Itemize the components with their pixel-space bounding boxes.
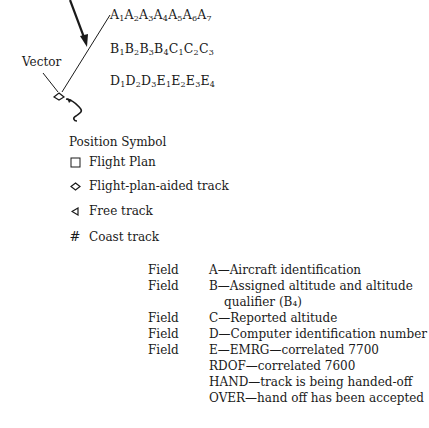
data-block-field: A5 [168, 7, 183, 22]
diamond-icon [67, 182, 83, 191]
field-row: qualifier (B₄) [148, 294, 427, 310]
data-block-field: B2 [125, 41, 140, 56]
field-description: RDOF—correlated 7600 [209, 358, 355, 374]
field-key [148, 390, 209, 406]
field-description: E—EMRG—correlated 7700 [209, 342, 379, 358]
data-block-field: C1 [169, 41, 184, 56]
square-icon [67, 157, 83, 168]
data-block-field: D1 [110, 73, 126, 88]
legend-label: Coast track [89, 230, 159, 244]
trail-arrow-icon [67, 98, 72, 103]
field-description: OVER—hand off has been accepted [209, 390, 424, 406]
field-key: Field [148, 342, 209, 358]
field-description: qualifier (B₄) [224, 294, 302, 310]
field-description: D—Computer identification number [209, 326, 427, 342]
legend-item-free-track: Free track [67, 204, 153, 218]
legend-item-flight-plan: Flight Plan [67, 155, 156, 169]
legend-label: Free track [89, 204, 153, 218]
vector-line [43, 73, 58, 92]
hash-icon: # [67, 229, 83, 244]
data-block-field: E3 [186, 73, 201, 88]
field-row: FieldD—Computer identification number [148, 326, 427, 342]
data-block-line-1: A1A2A3A4A5A6A7 [110, 7, 212, 23]
field-description: HAND—track is being handed-off [209, 374, 412, 390]
field-row: FieldC—Reported altitude [148, 310, 427, 326]
field-row: FieldA—Aircraft identification [148, 262, 427, 278]
data-block-field: A7 [197, 7, 212, 22]
arrow-shaft [70, 0, 85, 40]
leader-line [62, 15, 110, 92]
field-key [148, 294, 224, 310]
data-block-field: C2 [184, 41, 199, 56]
squiggle-trail [66, 99, 81, 121]
field-definitions: FieldA—Aircraft identificationFieldB—Ass… [148, 262, 427, 406]
field-description: B—Assigned altitude and altitude [209, 278, 413, 294]
arrow-head-icon [80, 34, 88, 47]
field-key: Field [148, 262, 209, 278]
legend-label: Flight-plan-aided track [89, 179, 229, 193]
field-description: C—Reported altitude [209, 310, 337, 326]
data-block-field: C3 [199, 41, 214, 56]
data-block-field: A3 [139, 7, 154, 22]
data-block-field: D3 [141, 73, 157, 88]
field-key: Field [148, 278, 209, 294]
data-block-field: A1 [110, 7, 125, 22]
data-block-field: B3 [139, 41, 154, 56]
field-row: RDOF—correlated 7600 [148, 358, 427, 374]
data-block-field: D2 [126, 73, 142, 88]
field-row: OVER—hand off has been accepted [148, 390, 427, 406]
data-block-field: A4 [154, 7, 169, 22]
legend-title: Position Symbol [69, 135, 166, 149]
legend-item-flight-plan-aided: Flight-plan-aided track [67, 179, 229, 193]
data-block-field: A2 [125, 7, 140, 22]
field-row: FieldB—Assigned altitude and altitude [148, 278, 427, 294]
field-row: HAND—track is being handed-off [148, 374, 427, 390]
legend-item-coast-track: # Coast track [67, 229, 159, 244]
field-description: A—Aircraft identification [209, 262, 361, 278]
data-block-field: E2 [171, 73, 186, 88]
triangle-left-icon [67, 207, 83, 216]
data-block-field: A6 [183, 7, 198, 22]
data-block-line-2: B1B2B3B4C1C2C3 [110, 41, 214, 57]
data-block-field: B4 [154, 41, 169, 56]
field-key: Field [148, 326, 209, 342]
diamond-position-icon [54, 93, 64, 100]
data-block-line-3: D1D2D3E1E2E3E4 [110, 73, 215, 89]
field-key: Field [148, 310, 209, 326]
vector-label: Vector [22, 55, 61, 69]
field-key [148, 358, 209, 374]
field-key [148, 374, 209, 390]
field-row: FieldE—EMRG—correlated 7700 [148, 342, 427, 358]
data-block-field: E4 [200, 73, 215, 88]
data-block-field: B1 [110, 41, 125, 56]
legend-label: Flight Plan [89, 155, 156, 169]
data-block-field: E1 [157, 73, 172, 88]
